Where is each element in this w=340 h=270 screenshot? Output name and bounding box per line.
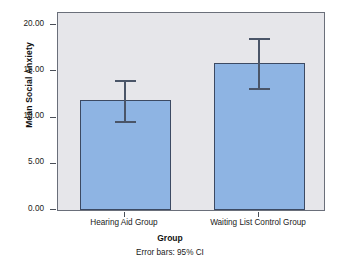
x-axis-tick-label: Waiting List Control Group — [183, 218, 333, 227]
error-bar-cap-lower — [249, 88, 270, 90]
plot-inner — [58, 13, 324, 210]
error-bar-cap-upper — [249, 38, 270, 40]
y-axis-tick — [50, 117, 56, 118]
x-axis-tick-label: Hearing Aid Group — [49, 218, 199, 227]
y-axis-tick-label: 20.00 — [0, 19, 44, 28]
x-axis-title: Group — [0, 233, 340, 243]
y-axis-tick — [50, 24, 56, 25]
error-bar-cap-upper — [115, 80, 136, 82]
y-axis-tick-label: 5.00 — [0, 157, 44, 166]
y-axis-tick-label: 10.00 — [0, 111, 44, 120]
plot-area — [57, 12, 325, 211]
error-bar-stem — [258, 38, 260, 88]
y-axis-tick-label: 0.00 — [0, 204, 44, 213]
error-bar-cap-lower — [115, 121, 136, 123]
y-axis-tick — [50, 209, 56, 210]
y-axis-tick-label: 15.00 — [0, 65, 44, 74]
error-bar-stem — [124, 80, 126, 122]
bar-chart: Mean Social Anxiety 0.005.0010.0015.0020… — [0, 0, 340, 270]
y-axis-tick — [50, 163, 56, 164]
error-bar-note: Error bars: 95% CI — [0, 248, 340, 257]
x-axis-tick — [258, 212, 259, 217]
y-axis-tick — [50, 70, 56, 71]
y-axis-title: Mean Social Anxiety — [24, 5, 38, 165]
x-axis-tick — [124, 212, 125, 217]
